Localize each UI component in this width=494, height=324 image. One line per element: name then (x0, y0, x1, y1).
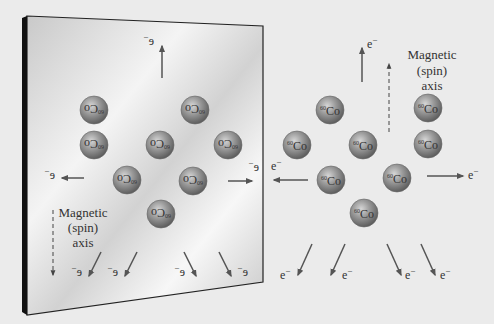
electron-label: e− (367, 35, 377, 51)
mirror-axis-label-3: axis (73, 235, 94, 250)
electron-arrow (387, 244, 401, 275)
electron-label: e− (405, 266, 415, 282)
mirror-co60-atom: 60Co (147, 200, 175, 228)
real-world: Magnetic (spin) axis e− e− e− e− e− e− e… (271, 35, 478, 282)
mirror-co60-atom: 60Co (179, 167, 207, 195)
mirror-axis-label-2: (spin) (68, 220, 98, 235)
diagram-canvas: Magnetic (spin) axis e− e− e− e− e− e− e… (0, 0, 494, 324)
mirror (22, 16, 263, 315)
mirror-co60-atom: 60Co (80, 131, 108, 159)
co60-atom: 60Co (383, 164, 411, 192)
co60-atom: 60Co (283, 131, 311, 159)
axis-label-2: (spin) (417, 63, 447, 78)
axis-label-1: Magnetic (407, 47, 456, 62)
electron-label: e− (440, 266, 450, 282)
co60-atom: 60Co (349, 131, 377, 159)
diagram-stage: Magnetic (spin) axis e− e− e− e− e− e− e… (0, 0, 494, 324)
mirror-co60-atom: 60Co (181, 96, 209, 124)
co60-atom: 60Co (317, 166, 345, 194)
mirror-co60-atom: 60Co (113, 166, 141, 194)
mirror-co60-atom: 60Co (80, 96, 108, 124)
co60-atom: 60Co (414, 130, 442, 158)
electron-arrow (298, 244, 312, 275)
electron-label: e− (468, 166, 478, 182)
mirror-axis-label-1: Magnetic (58, 205, 107, 220)
electron-label: e− (342, 266, 352, 282)
electron-label: e− (271, 157, 281, 173)
co60-atom: 60Co (316, 96, 344, 124)
electron-label: e− (280, 266, 290, 282)
mirror-co60-atom: 60Co (214, 131, 242, 159)
electron-arrow (421, 244, 435, 275)
co60-atom: 60Co (414, 94, 442, 122)
co60-atom: 60Co (350, 199, 378, 227)
mirror-co60-atom: 60Co (146, 131, 174, 159)
axis-label-3: axis (422, 78, 443, 93)
